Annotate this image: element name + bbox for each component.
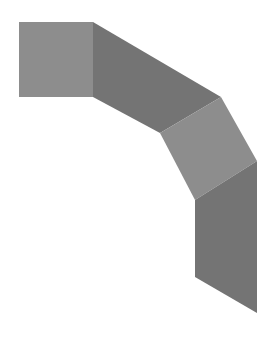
bent-band-diagram xyxy=(0,0,277,340)
segment-1-square xyxy=(19,22,93,97)
